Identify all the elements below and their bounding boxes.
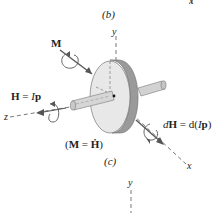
equals: =	[20, 90, 32, 102]
dH-arrow-icon	[136, 120, 164, 145]
y-axis-label: y	[112, 27, 116, 37]
caption-b: (b)	[102, 9, 115, 20]
angular-momentum-arrow-icon	[36, 101, 66, 122]
moment-label: M	[51, 38, 61, 49]
moment-arrow-icon	[60, 50, 92, 74]
right-shaft	[138, 81, 166, 96]
relation-label: (M = Ḣ)	[65, 139, 103, 150]
H-symbol: H	[11, 90, 20, 102]
differential-label: dH = d(Ip)	[163, 119, 211, 130]
z-axis-label: z	[4, 112, 8, 122]
gyroscope-diagram	[0, 0, 216, 213]
caption-c: (c)	[104, 156, 116, 167]
top-x-fragment-label: x	[189, 0, 193, 6]
angular-momentum-label: H = Ip	[11, 91, 41, 102]
x-axis-label: x	[187, 161, 191, 171]
bottom-y-axis-label: y	[128, 178, 132, 188]
p-symbol: p	[35, 90, 41, 102]
